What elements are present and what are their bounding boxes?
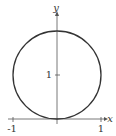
y-tick-label-1: 1: [46, 69, 52, 80]
plot-canvas: y x -1 1 1: [0, 0, 116, 136]
x-axis-label: x: [107, 113, 113, 124]
x-tick-label-neg1: -1: [7, 123, 17, 134]
x-tick-label-pos1: 1: [98, 123, 104, 134]
y-axis-label: y: [52, 2, 59, 13]
